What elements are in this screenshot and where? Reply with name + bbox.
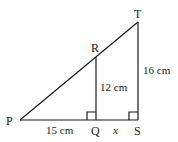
point-label-P: P [6, 114, 13, 128]
point-label-R: R [91, 41, 99, 55]
triangle-diagram: T R P Q S 16 cm 12 cm 15 cm x [0, 0, 178, 142]
measurement-PQ: 15 cm [46, 124, 74, 136]
measurement-ST: 16 cm [143, 64, 171, 76]
point-label-Q: Q [91, 124, 100, 138]
measurement-QS: x [112, 124, 118, 136]
point-label-T: T [134, 7, 142, 21]
point-label-S: S [134, 124, 141, 138]
measurement-QR: 12 cm [100, 81, 128, 93]
right-angle-marker-S [129, 112, 138, 120]
right-angle-marker-Q [87, 112, 96, 120]
segment-PT [20, 22, 138, 120]
